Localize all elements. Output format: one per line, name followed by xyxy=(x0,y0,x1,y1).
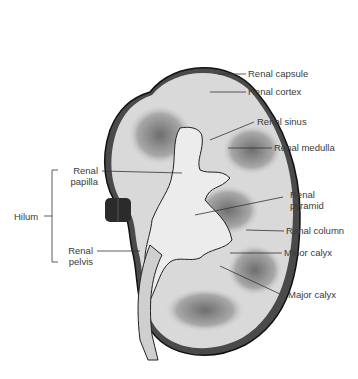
label-renal-cortex: Renal cortex xyxy=(248,86,301,97)
label-renal-pyramid-line2: pyramid xyxy=(290,200,324,211)
label-minor-calyx: Minor calyx xyxy=(284,247,332,258)
label-renal-papilla: Renal papilla xyxy=(60,165,98,187)
label-renal-pelvis-line2: pelvis xyxy=(55,256,93,267)
label-renal-capsule: Renal capsule xyxy=(248,68,308,79)
label-renal-column: Renal column xyxy=(286,225,344,236)
label-renal-papilla-line1: Renal xyxy=(60,165,98,176)
label-renal-pelvis-line1: Renal xyxy=(55,245,93,256)
pyramid-lower xyxy=(165,288,245,332)
label-renal-papilla-line2: papilla xyxy=(60,176,98,187)
label-renal-pyramid-line1: Renal xyxy=(290,189,324,200)
label-hilum: Hilum xyxy=(14,211,38,222)
label-renal-sinus: Renal sinus xyxy=(257,116,307,127)
pyramid-lower-right xyxy=(227,244,283,296)
label-major-calyx: Major calyx xyxy=(288,289,336,300)
label-renal-medulla: Renal medulla xyxy=(274,142,335,153)
label-renal-pelvis: Renal pelvis xyxy=(55,245,93,267)
pyramid-upper-right xyxy=(222,125,282,175)
label-renal-pyramid: Renal pyramid xyxy=(290,189,324,211)
